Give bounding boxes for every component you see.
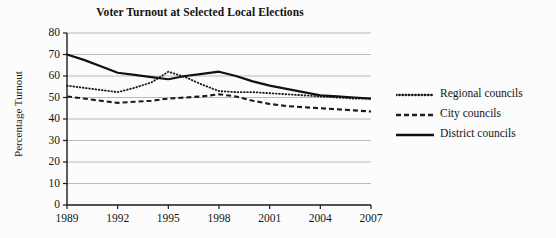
legend-item[interactable]: Regional councils xyxy=(396,84,556,102)
legend-label: Regional councils xyxy=(440,87,523,99)
y-axis-tick-label: 60 xyxy=(30,70,60,82)
legend-item[interactable]: City councils xyxy=(396,104,556,122)
x-axis-tick-label: 2007 xyxy=(349,213,393,225)
y-axis-tick-label: 70 xyxy=(30,49,60,61)
x-axis-tick-label: 1992 xyxy=(96,213,140,225)
y-axis-tick-label: 30 xyxy=(30,135,60,147)
legend-item[interactable]: District councils xyxy=(396,124,556,142)
dotted-line-sample xyxy=(396,87,434,99)
x-axis-tick-label: 1998 xyxy=(197,213,241,225)
dashed-line-sample xyxy=(396,107,434,119)
x-axis-tick-label: 2001 xyxy=(248,213,292,225)
x-axis-tick-label: 2004 xyxy=(298,213,342,225)
x-axis-tick-label: 1989 xyxy=(45,213,89,225)
y-axis-tick-label: 50 xyxy=(30,92,60,104)
y-axis-tick-label: 40 xyxy=(30,113,60,125)
legend-label: City councils xyxy=(440,107,501,119)
y-axis-tick-label: 80 xyxy=(30,27,60,39)
solid-line-sample xyxy=(396,127,434,139)
axis-ticks xyxy=(63,33,371,209)
y-axis-tick-label: 0 xyxy=(30,199,60,211)
y-axis-tick-label: 10 xyxy=(30,178,60,190)
legend-label: District councils xyxy=(440,127,516,139)
chart-figure: Voter Turnout at Selected Local Election… xyxy=(0,0,556,238)
series-lines xyxy=(67,55,371,112)
x-axis-tick-label: 1995 xyxy=(146,213,190,225)
y-axis-tick-label: 20 xyxy=(30,156,60,168)
chart-legend: Regional councilsCity councilsDistrict c… xyxy=(396,84,556,144)
